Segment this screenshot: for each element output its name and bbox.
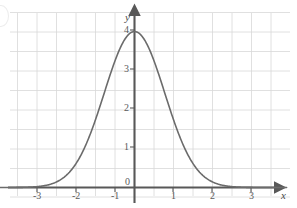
x-tick-label-3: 3	[249, 191, 254, 201]
y-tick-label-1: 1	[124, 142, 129, 152]
x-tick-label-neg2: -2	[72, 191, 80, 201]
x-axis-name: x	[281, 190, 286, 201]
y-tick-label-3: 3	[124, 64, 129, 74]
x-tick-label-2: 2	[210, 191, 215, 201]
y-axis-name: y	[125, 12, 130, 23]
plot-canvas	[0, 0, 297, 208]
origin-label: 0	[125, 177, 130, 187]
x-tick-label-neg3: -3	[33, 191, 41, 201]
x-tick-label-neg1: -1	[111, 191, 119, 201]
y-tick-label-4: 4	[124, 25, 129, 35]
bell-curve-figure: -3 -2 -1 0 1 2 3 4 3 2 1 y x	[0, 0, 297, 208]
y-axis	[130, 14, 135, 203]
x-axis	[8, 188, 276, 193]
x-tick-label-1: 1	[171, 191, 176, 201]
bell-curve-path	[0, 32, 287, 188]
y-tick-label-2: 2	[124, 103, 129, 113]
grid-lines	[10, 13, 290, 198]
